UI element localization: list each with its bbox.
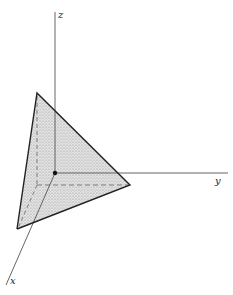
z-axis-label: z <box>57 9 64 20</box>
3d-plane-diagram: z y x <box>0 0 233 295</box>
origin-dot <box>53 171 57 175</box>
x-axis-label: x <box>10 275 16 286</box>
y-axis-label: y <box>214 175 221 186</box>
